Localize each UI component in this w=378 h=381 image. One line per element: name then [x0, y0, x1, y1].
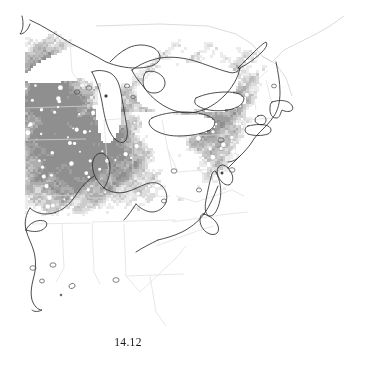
figure-caption: 14.12 [0, 336, 256, 348]
figure-container: 14.12 [0, 0, 378, 381]
map-raster-layer [0, 0, 378, 330]
map-density-raster [0, 0, 378, 330]
